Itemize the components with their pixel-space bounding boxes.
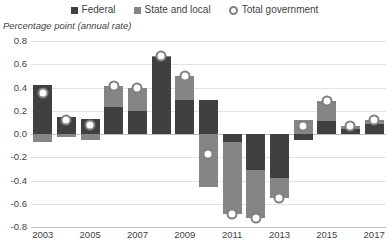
- square-swatch-icon: [71, 7, 78, 14]
- legend-item-federal: Federal: [71, 5, 116, 15]
- x-axis-tick-label: 2017: [364, 230, 385, 240]
- total-government-marker[interactable]: [37, 88, 48, 99]
- x-axis-tick-labels: 20032005200720092011201320152017: [31, 230, 386, 246]
- bar-group[interactable]: [268, 41, 292, 227]
- x-axis-tick-label: 2013: [269, 230, 290, 240]
- bar-segment-federal[interactable]: [294, 134, 313, 140]
- y-axis-tick-label: -0.6: [11, 199, 27, 209]
- legend-label-federal: Federal: [82, 5, 116, 15]
- bar-segment-state-local[interactable]: [33, 134, 52, 142]
- bar-segment-federal[interactable]: [270, 134, 289, 178]
- legend-item-total-government: Total government: [229, 5, 319, 15]
- bar-group[interactable]: [244, 41, 268, 227]
- x-axis-tick-label: 2007: [127, 230, 148, 240]
- total-government-marker[interactable]: [250, 212, 261, 223]
- bar-group[interactable]: [149, 41, 173, 227]
- total-government-marker[interactable]: [132, 82, 143, 93]
- y-axis-tick-label: 0.6: [14, 60, 27, 70]
- total-government-marker[interactable]: [321, 96, 332, 107]
- y-axis-tick-label: 0.8: [14, 36, 27, 46]
- total-government-marker[interactable]: [369, 115, 380, 126]
- circle-marker-icon: [229, 6, 238, 15]
- plot-area: 0.80.60.40.20.0-0.2-0.4-0.6-0.8: [31, 41, 386, 227]
- bar-segment-state-local[interactable]: [246, 170, 265, 218]
- y-axis-tick-label: -0.8: [11, 222, 27, 232]
- bar-segment-federal[interactable]: [128, 111, 147, 134]
- total-government-marker[interactable]: [274, 192, 285, 203]
- bar-group[interactable]: [31, 41, 55, 227]
- bar-segment-federal[interactable]: [317, 121, 336, 134]
- chart-legend: Federal State and local Total government: [0, 2, 389, 18]
- x-axis-line: [31, 227, 386, 228]
- bar-segment-state-local[interactable]: [81, 134, 100, 140]
- total-government-marker[interactable]: [298, 120, 309, 131]
- total-government-marker[interactable]: [203, 148, 214, 159]
- x-axis-tick-label: 2011: [222, 230, 242, 240]
- bar-group[interactable]: [78, 41, 102, 227]
- total-government-marker[interactable]: [156, 51, 167, 62]
- bar-segment-federal[interactable]: [104, 107, 123, 134]
- legend-item-state-and-local: State and local: [134, 5, 211, 15]
- bar-segment-federal[interactable]: [246, 134, 265, 170]
- bar-group[interactable]: [173, 41, 197, 227]
- bar-group[interactable]: [362, 41, 386, 227]
- bar-segment-state-local[interactable]: [223, 142, 242, 214]
- y-axis-title: Percentage point (annual rate): [3, 20, 131, 31]
- legend-label-state-and-local: State and local: [145, 5, 211, 15]
- total-government-marker[interactable]: [227, 209, 238, 220]
- y-axis-tick-label: 0.0: [14, 129, 27, 139]
- y-axis-tick-label: -0.4: [11, 176, 27, 186]
- bar-group[interactable]: [197, 41, 221, 227]
- bar-segment-federal[interactable]: [175, 100, 194, 134]
- total-government-marker[interactable]: [85, 119, 96, 130]
- total-government-marker[interactable]: [108, 81, 119, 92]
- y-axis-tick-label: -0.2: [11, 153, 27, 163]
- y-axis-tick-label: 0.4: [14, 83, 27, 93]
- bar-segment-state-local[interactable]: [57, 134, 76, 137]
- chart-root: Federal State and local Total government…: [0, 0, 389, 252]
- bar-group[interactable]: [55, 41, 79, 227]
- bar-segment-federal[interactable]: [152, 57, 171, 134]
- x-axis-tick-label: 2009: [174, 230, 195, 240]
- bar-segment-state-local[interactable]: [199, 134, 218, 187]
- bar-group[interactable]: [315, 41, 339, 227]
- bar-group[interactable]: [126, 41, 150, 227]
- x-axis-tick-label: 2005: [80, 230, 101, 240]
- bar-segment-federal[interactable]: [199, 100, 218, 134]
- bar-group[interactable]: [220, 41, 244, 227]
- bar-group[interactable]: [339, 41, 363, 227]
- bar-group[interactable]: [102, 41, 126, 227]
- y-axis-tick-label: 0.2: [14, 106, 27, 116]
- bar-series-container: [31, 41, 386, 227]
- total-government-marker[interactable]: [345, 120, 356, 131]
- bar-segment-federal[interactable]: [223, 134, 242, 142]
- legend-label-total-government: Total government: [242, 5, 319, 15]
- total-government-marker[interactable]: [179, 70, 190, 81]
- bar-group[interactable]: [291, 41, 315, 227]
- x-axis-tick-label: 2003: [32, 230, 53, 240]
- x-axis-tick-label: 2015: [316, 230, 337, 240]
- total-government-marker[interactable]: [61, 115, 72, 126]
- square-swatch-icon: [134, 7, 141, 14]
